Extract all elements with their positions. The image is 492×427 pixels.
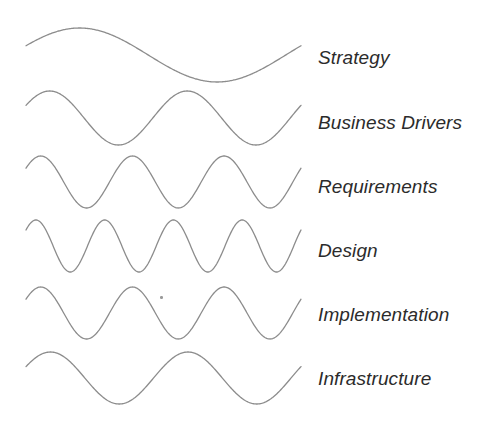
wave-curve-requirements <box>26 156 301 208</box>
wave-curve-business-drivers <box>26 91 301 145</box>
wave-curve-design <box>26 220 301 272</box>
layer-label-strategy: Strategy <box>318 48 390 67</box>
diagram-canvas: StrategyBusiness DriversRequirementsDesi… <box>0 0 492 427</box>
layer-label-implementation: Implementation <box>318 305 449 324</box>
wave-curve-strategy <box>26 28 301 82</box>
wave-layers-svg <box>0 0 492 427</box>
layer-label-infrastructure: Infrastructure <box>318 369 431 388</box>
wave-curve-implementation <box>26 287 301 339</box>
layer-label-requirements: Requirements <box>318 177 437 196</box>
layer-label-business-drivers: Business Drivers <box>318 113 462 132</box>
wave-curve-infrastructure <box>26 352 301 404</box>
layer-label-design: Design <box>318 241 378 260</box>
scan-speck <box>160 296 163 299</box>
